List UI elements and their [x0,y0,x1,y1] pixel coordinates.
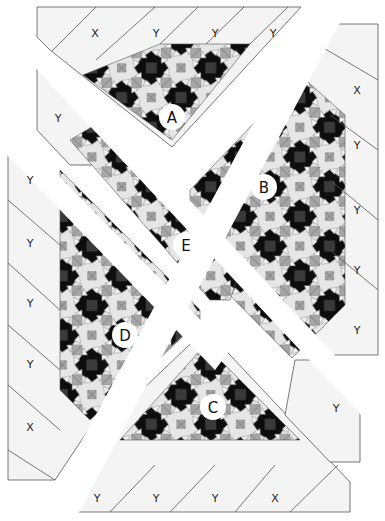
section-label-a: A [159,104,185,130]
setting-piece-label-left: Y [26,237,34,250]
setting-piece-label-lower_right: Y [332,402,340,415]
setting-piece-label-right: Y [353,139,361,152]
section-label-b: B [251,174,277,200]
section-letter: C [208,399,218,417]
section-label-d: D [112,322,138,348]
setting-piece-label-top: X [91,27,99,40]
setting-piece-label-left: Y [26,174,34,187]
setting-piece-label-bottom: Y [93,492,101,505]
section-letter: B [259,179,269,197]
setting-piece-label-bottom: Y [211,492,219,505]
setting-piece-label-right: X [353,84,361,97]
setting-piece-label-upper_left: Y [54,112,62,125]
setting-piece-label-top: Y [269,27,277,40]
setting-piece-label-right: Y [353,204,361,217]
setting-piece-label-right: Y [353,324,361,337]
setting-piece-label-bottom: X [271,492,279,505]
section-label-e: E [173,232,199,258]
setting-piece-label-left: X [26,421,34,434]
setting-piece-label-bottom: Y [152,492,160,505]
setting-piece-label-top: Y [211,27,219,40]
section-letter: A [167,109,178,127]
section-label-c: C [200,394,226,420]
quilt-diagram-svg: ABEDC XYYYYXYYYYYYYYYXYYYX [0,0,385,521]
setting-piece-label-left: Y [26,358,34,371]
setting-piece-label-right: Y [353,264,361,277]
quilt-diagram: ABEDC XYYYYXYYYYYYYYYXYYYX [0,0,385,521]
section-letter: E [181,237,190,255]
setting-piece-label-left: Y [26,297,34,310]
setting-piece-label-top: Y [152,27,160,40]
section-letter: D [119,327,131,345]
